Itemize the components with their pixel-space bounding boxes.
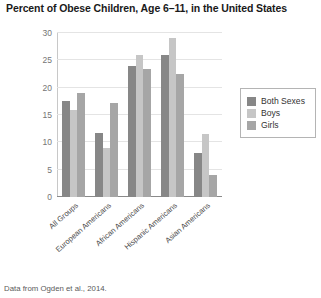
y-axis-tick-label: 20 xyxy=(43,83,52,93)
x-axis-tick-label: All Groups xyxy=(47,201,80,231)
y-axis-tick-label: 15 xyxy=(43,110,52,120)
y-axis-tick-label: 10 xyxy=(43,137,52,147)
bar xyxy=(95,133,102,198)
bar-group xyxy=(156,33,189,197)
legend-item-label: Both Sexes xyxy=(261,96,305,106)
bar xyxy=(161,55,168,197)
y-axis-tick-label: 5 xyxy=(47,165,52,175)
bar xyxy=(70,110,77,197)
bar-group xyxy=(189,33,222,197)
bar xyxy=(62,101,69,197)
legend-item: Both Sexes xyxy=(247,96,310,106)
bar xyxy=(128,66,135,197)
y-axis-tick-label: 25 xyxy=(43,55,52,65)
legend-swatch-icon xyxy=(247,97,256,106)
bar xyxy=(110,103,117,197)
bar xyxy=(209,175,216,197)
legend-item: Girls xyxy=(247,120,310,130)
y-axis-tick-label: 0 xyxy=(47,192,52,202)
legend-swatch-icon xyxy=(247,121,256,130)
bar xyxy=(103,148,110,197)
source-caption: Data from Ogden et al., 2014. xyxy=(4,284,107,293)
legend-swatch-icon xyxy=(247,109,256,118)
x-axis-tick-label: European Americans xyxy=(53,201,112,254)
legend-item-label: Girls xyxy=(261,120,279,130)
y-axis-tick-label: 30 xyxy=(43,28,52,38)
bar xyxy=(202,134,209,197)
bar xyxy=(77,93,84,197)
bar xyxy=(143,69,150,197)
legend-item: Boys xyxy=(247,108,310,118)
page-title: Percent of Obese Children, Age 6–11, in … xyxy=(6,2,287,14)
bars-layer xyxy=(57,33,222,197)
plot-area: 051015202530 All GroupsEuropean American… xyxy=(57,33,222,197)
legend-item-label: Boys xyxy=(261,108,280,118)
bar xyxy=(136,55,143,197)
bar-group xyxy=(123,33,156,197)
bar xyxy=(176,74,183,197)
bar-group xyxy=(57,33,90,197)
bar xyxy=(194,153,201,197)
bar xyxy=(169,38,176,197)
legend: Both SexesBoysGirls xyxy=(240,88,316,138)
bar-group xyxy=(90,33,123,197)
